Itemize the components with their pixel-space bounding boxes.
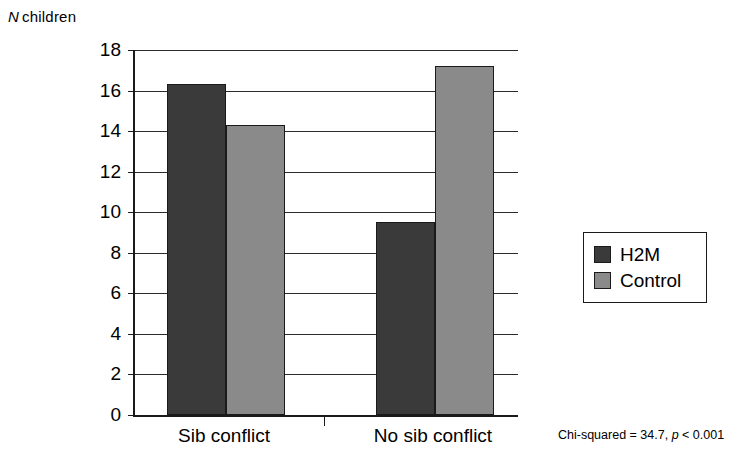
- annotation-p-symbol: p: [672, 428, 679, 442]
- annotation-prefix: Chi-squared = 34.7,: [558, 428, 672, 442]
- legend-swatch-icon-1: [594, 272, 611, 289]
- y-tick-18: [128, 50, 135, 51]
- annotation-suffix: < 0.001: [679, 428, 725, 442]
- y-tick-6: [128, 293, 135, 294]
- y-tick-label-12: 12: [100, 162, 121, 181]
- plot-area: [133, 50, 518, 417]
- y-tick-label-0: 0: [110, 405, 121, 424]
- legend-item-1: Control: [594, 267, 696, 293]
- y-tick-label-16: 16: [100, 81, 121, 100]
- y-tick-16: [128, 91, 135, 92]
- y-tick-label-4: 4: [110, 324, 121, 343]
- y-tick-0: [128, 415, 135, 416]
- bar-control-0: [226, 125, 285, 415]
- y-tick-14: [128, 131, 135, 132]
- legend-swatch-icon-0: [594, 246, 611, 263]
- bar-chart-figure: Nchildren H2M Control Chi-squared = 34.7…: [0, 0, 737, 465]
- x-axis-label-1: No sib conflict: [333, 425, 533, 447]
- legend-label-0: H2M: [620, 245, 660, 264]
- y-tick-label-2: 2: [110, 364, 121, 383]
- bar-h2m-1: [376, 222, 435, 415]
- legend-item-0: H2M: [594, 241, 696, 267]
- gridline-18: [135, 50, 518, 51]
- y-tick-10: [128, 212, 135, 213]
- y-tick-label-14: 14: [100, 121, 121, 140]
- y-tick-8: [128, 253, 135, 254]
- y-tick-2: [128, 374, 135, 375]
- y-tick-label-18: 18: [100, 40, 121, 59]
- y-tick-label-10: 10: [100, 202, 121, 221]
- y-axis-title: Nchildren: [8, 8, 76, 25]
- y-axis-title-rest: children: [22, 8, 76, 25]
- x-axis-mid-tick: [324, 417, 325, 426]
- y-tick-label-8: 8: [110, 243, 121, 262]
- statistics-annotation: Chi-squared = 34.7, p < 0.001: [558, 428, 724, 442]
- y-axis-title-italic: N: [8, 8, 19, 25]
- y-tick-label-6: 6: [110, 283, 121, 302]
- bar-h2m-0: [167, 84, 226, 415]
- y-tick-12: [128, 172, 135, 173]
- x-axis-label-0: Sib conflict: [124, 425, 324, 447]
- legend-label-1: Control: [620, 271, 681, 290]
- bar-control-1: [435, 66, 494, 415]
- y-tick-4: [128, 334, 135, 335]
- legend: H2M Control: [583, 232, 707, 303]
